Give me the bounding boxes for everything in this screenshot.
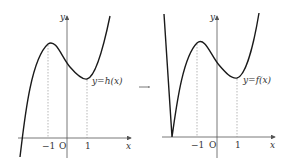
right-tick-neg1: −1: [191, 140, 204, 150]
left-y-axis-label: y: [59, 12, 66, 22]
left-function-label: y=h(x): [91, 76, 123, 86]
left-tick-neg1: −1: [42, 141, 55, 151]
left-curve-h: [20, 16, 110, 157]
left-origin-label: O: [59, 141, 66, 151]
left-graph: y x O −1 1 y=h(x): [18, 12, 131, 158]
right-graph: y x O −1 1 y=f(x): [162, 12, 275, 158]
transform-arrow: [139, 86, 150, 88]
right-function-label: y=f(x): [242, 75, 272, 85]
left-x-axis-label: x: [126, 141, 131, 151]
right-tick-1: 1: [235, 140, 241, 150]
left-tick-1: 1: [85, 141, 91, 151]
right-y-axis-label: y: [209, 12, 216, 22]
right-x-axis-label: x: [270, 140, 275, 150]
function-graph-figure: y x O −1 1 y=h(x) y x O −1 1 y=f(x): [0, 0, 294, 167]
right-origin-label: O: [209, 140, 216, 150]
